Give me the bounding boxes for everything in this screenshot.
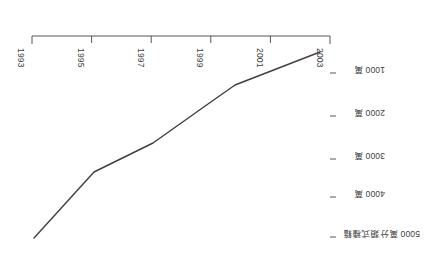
ytick-label-2000: 2000 萬 bbox=[354, 108, 385, 120]
chart-screenshot: 1993 1995 1997 1999 2001 2003 1000 萬 200… bbox=[0, 0, 433, 262]
xtick-label-1997: 1997 bbox=[136, 48, 146, 68]
x-axis bbox=[32, 36, 330, 44]
data-series-line bbox=[34, 52, 320, 238]
ytick-label-1000: 1000 萬 bbox=[354, 65, 385, 77]
xtick-label-1995: 1995 bbox=[76, 48, 86, 68]
ytick-label-3000: 3000 萬 bbox=[354, 151, 385, 163]
xtick-label-2001: 2001 bbox=[255, 48, 265, 68]
chart-figure: 1993 1995 1997 1999 2001 2003 1000 萬 200… bbox=[0, 0, 433, 262]
xtick-label-1999: 1999 bbox=[195, 48, 205, 68]
y-axis bbox=[330, 73, 336, 237]
xtick-label-2003: 2003 bbox=[315, 48, 325, 68]
ytick-label-5000: 5000 萬分類式種籍 bbox=[343, 229, 420, 241]
xtick-label-1993: 1993 bbox=[16, 48, 26, 68]
chart-plot-area bbox=[0, 0, 433, 262]
ytick-label-4000: 4000 萬 bbox=[354, 189, 385, 201]
